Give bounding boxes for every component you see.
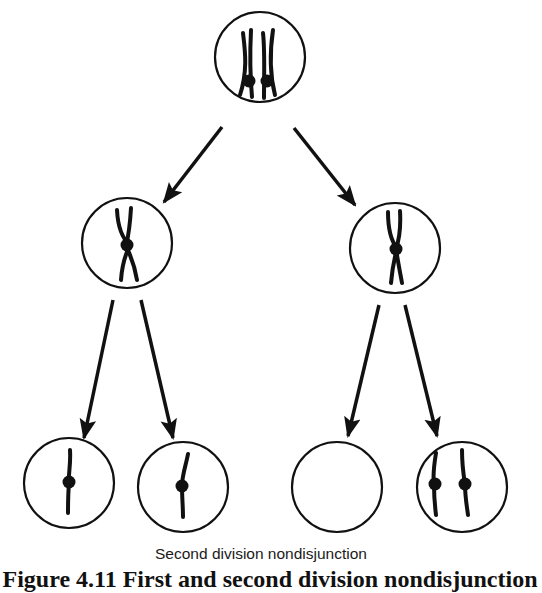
parent-cell [215, 12, 305, 102]
gamete-cell-3-empty [292, 442, 382, 532]
daughter-cell-right [350, 203, 440, 293]
chromosome-pair-icon [240, 30, 275, 98]
gamete-cell-2 [138, 442, 228, 532]
figure-caption-partial: Figure 4.11 First and second division no… [0, 566, 542, 593]
gamete-cell-1 [24, 438, 114, 528]
arrow-to-left-daughter [164, 127, 222, 202]
daughter-cell-left [82, 198, 172, 288]
arrow-to-gamete-3 [348, 305, 379, 436]
diagram-label: Second division nondisjunction [0, 545, 522, 563]
arrow-to-gamete-1 [84, 300, 113, 438]
gamete-cell-4 [417, 442, 507, 532]
arrow-to-gamete-2 [141, 300, 173, 438]
arrow-to-right-daughter [294, 128, 355, 205]
arrow-to-gamete-4 [405, 305, 437, 436]
